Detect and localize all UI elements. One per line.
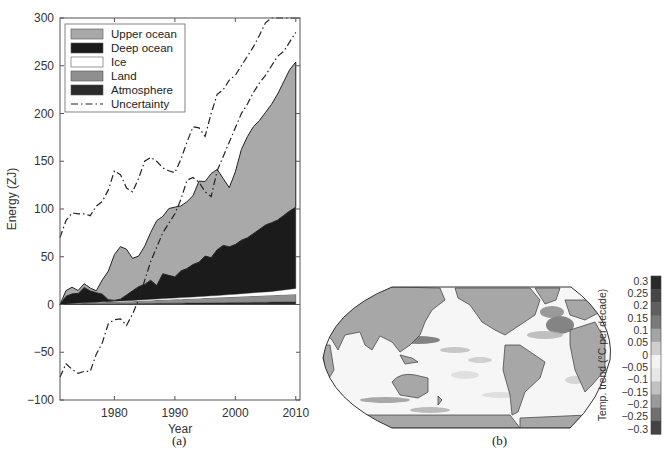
colorbar-tick-label: 0 xyxy=(642,349,648,361)
colorbar-tick-label: −0.3 xyxy=(627,423,648,435)
caption-b: (b) xyxy=(492,433,507,449)
sst-trend-map xyxy=(323,287,611,428)
colorbar-tick-label: −0.2 xyxy=(627,398,648,410)
colorbar-tick-label: 0.1 xyxy=(633,324,648,336)
legend: Upper oceanDeep oceanIceLandAtmosphereUn… xyxy=(65,24,185,112)
y-tick-label: 250 xyxy=(34,59,54,73)
y-tick-label: 300 xyxy=(34,11,54,25)
y-tick-label: −100 xyxy=(27,393,54,407)
colorbar-tick-label: 0.2 xyxy=(633,299,648,311)
colorbar: 0.30.250.20.150.10.050−0.05−0.1−0.15−0.2… xyxy=(596,275,661,435)
y-axis-label: Energy (ZJ) xyxy=(5,168,19,231)
chart-a: −100−50050100150200250300198019902000201… xyxy=(5,11,309,436)
y-tick-label: 100 xyxy=(34,202,54,216)
y-tick-label: 200 xyxy=(34,107,54,121)
y-tick-label: 150 xyxy=(34,154,54,168)
legend-item-land: Land xyxy=(111,70,137,82)
colorbar-tick-label: 0.15 xyxy=(628,312,649,324)
colorbar-tick-label: −0.25 xyxy=(621,410,648,422)
colorbar-tick-label: −0.15 xyxy=(621,386,648,398)
legend-item-deep-ocean: Deep ocean xyxy=(111,42,173,54)
colorbar-tick-label: 0.05 xyxy=(628,336,649,348)
landmass xyxy=(360,415,520,428)
colorbar-tick-label: 0.25 xyxy=(628,287,649,299)
y-tick-label: 0 xyxy=(47,298,54,312)
legend-item-ice: Ice xyxy=(111,56,126,68)
legend-item-uncertainty: Uncertainty xyxy=(111,98,169,110)
x-tick-label: 1980 xyxy=(101,406,128,420)
caption-a: (a) xyxy=(172,433,186,449)
x-tick-label: 1990 xyxy=(162,406,189,420)
colorbar-tick-label: −0.1 xyxy=(627,373,648,385)
y-tick-label: −50 xyxy=(34,345,55,359)
colorbar-tick-label: −0.05 xyxy=(621,361,648,373)
x-tick-label: 2010 xyxy=(282,406,309,420)
colorbar-label: Temp. trend (°C per decade) xyxy=(596,289,608,422)
legend-item-upper-ocean: Upper ocean xyxy=(111,28,177,40)
x-tick-label: 2000 xyxy=(222,406,249,420)
y-tick-label: 50 xyxy=(41,250,55,264)
colorbar-tick-label: 0.3 xyxy=(633,275,648,287)
energy-inventory-chart: −100−50050100150200250300198019902000201… xyxy=(0,0,668,459)
legend-item-atmosphere: Atmosphere xyxy=(111,84,173,96)
